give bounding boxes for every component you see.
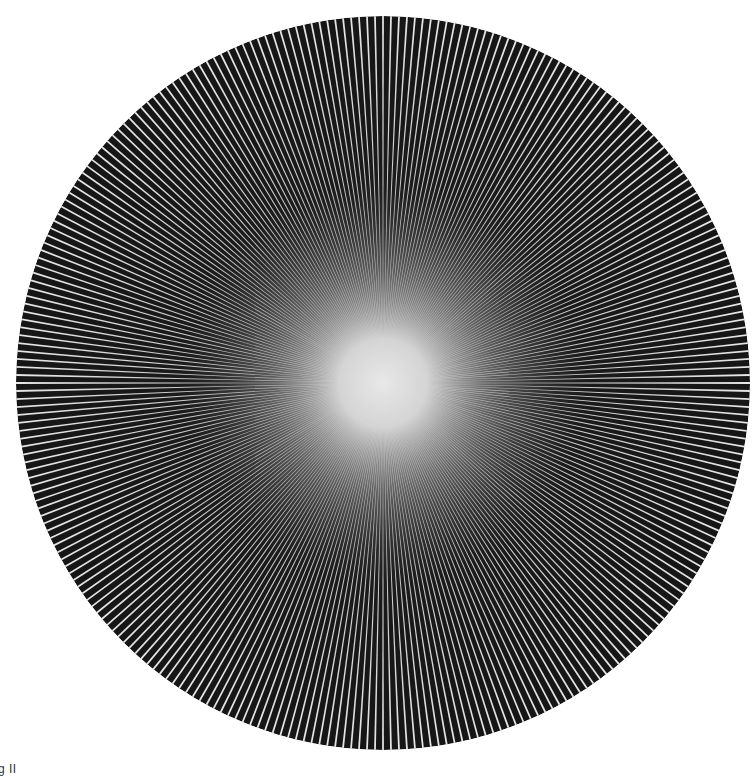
- radial-line-artwork: [0, 0, 754, 783]
- center-glow: [16, 16, 750, 750]
- caption-text: g II: [0, 762, 17, 776]
